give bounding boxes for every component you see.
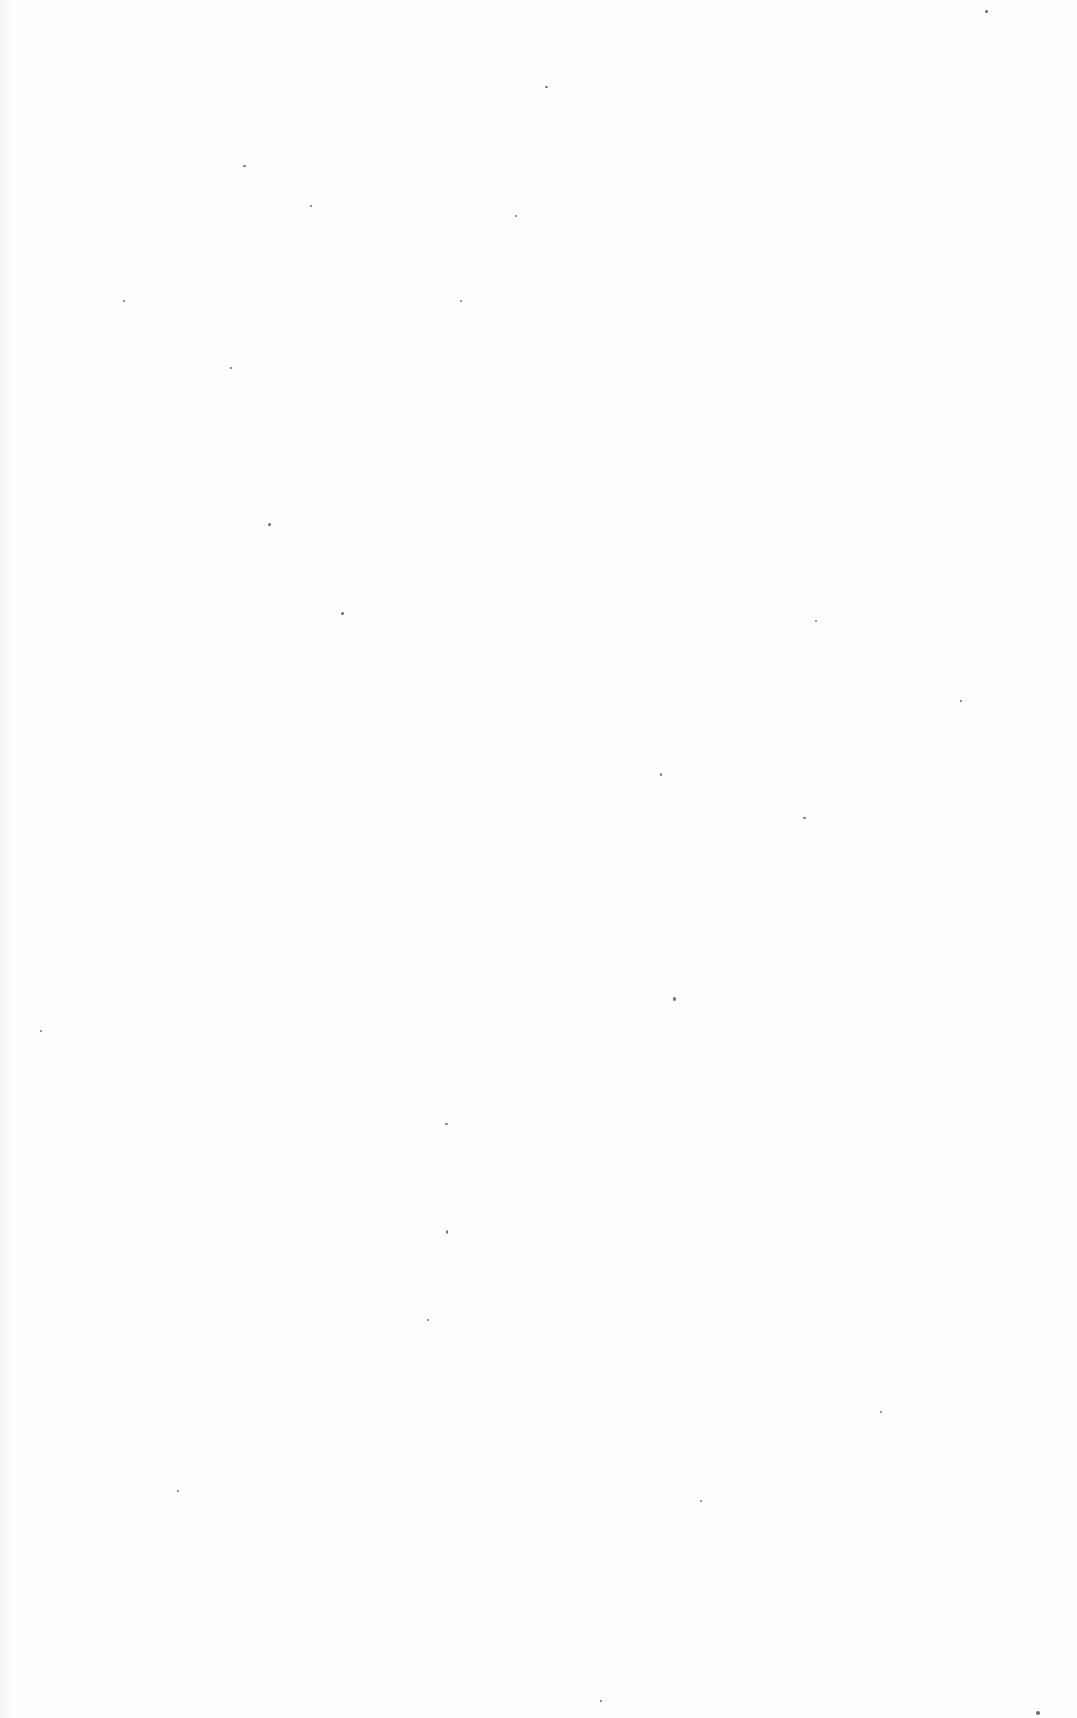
paper-speck (985, 10, 988, 13)
paper-speck (177, 1490, 179, 1492)
paper-speck (545, 86, 548, 88)
paper-speck (230, 367, 232, 369)
paper-speck (123, 300, 125, 302)
paper-speck (1036, 1711, 1040, 1715)
blank-scanned-page (0, 0, 1077, 1718)
paper-speck (243, 165, 246, 167)
paper-speck (803, 817, 806, 819)
paper-speck (427, 1319, 429, 1321)
paper-speck (310, 205, 312, 207)
paper-speck (446, 1230, 448, 1234)
paper-speck (600, 1700, 602, 1702)
paper-speck (660, 773, 662, 776)
paper-speck (460, 300, 462, 302)
paper-speck (341, 612, 344, 615)
paper-speck (515, 215, 517, 217)
paper-speck (700, 1500, 702, 1502)
paper-speck (268, 523, 271, 526)
paper-speck (673, 997, 676, 1001)
page-edge-shadow (0, 0, 14, 1718)
paper-speck (960, 700, 962, 702)
paper-speck (815, 620, 817, 622)
paper-speck (880, 1411, 882, 1413)
paper-speck (40, 1030, 42, 1032)
paper-speck (445, 1123, 448, 1125)
